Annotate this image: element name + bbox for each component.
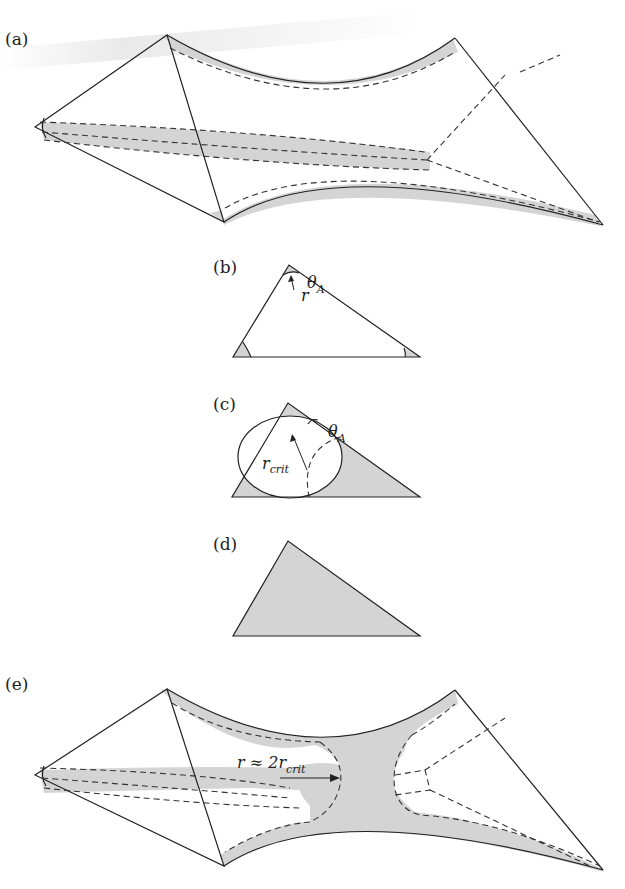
theta-a-b: θA: [307, 273, 325, 296]
bottom-film: [222, 184, 600, 226]
triangle-b: [233, 265, 420, 357]
panel-c-label: (c): [213, 394, 236, 414]
panel-a: (a): [5, 29, 603, 226]
panel-b: (b) θA r: [213, 257, 420, 357]
top-film: [167, 35, 458, 85]
panel-d-label: (d): [213, 534, 237, 554]
panel-e: (e) r ≈ 2rcrit: [5, 674, 604, 872]
panel-b-label: (b): [213, 257, 237, 277]
panel-d: (d): [213, 534, 420, 636]
panel-e-label: (e): [5, 674, 28, 694]
figure-canvas: (a) (b) θA r: [0, 0, 625, 889]
panel-a-label: (a): [5, 29, 28, 49]
panel-c: (c) θA rcrit: [213, 394, 420, 498]
filled-triangle: [233, 541, 420, 636]
inscribed-circle: [238, 416, 342, 498]
radius-label-b: r: [301, 286, 310, 305]
